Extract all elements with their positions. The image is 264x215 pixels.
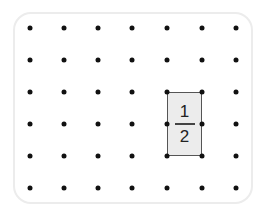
grid-dot [200,154,205,159]
grid-dot [200,58,205,63]
grid-dot [28,58,33,63]
grid-dot [234,122,239,127]
grid-dot [62,26,67,31]
grid-dot [62,154,67,159]
grid-dot [165,186,170,191]
grid-dot [165,58,170,63]
fraction-bar [175,123,195,125]
grid-dot [130,122,135,127]
grid-dot [62,186,67,191]
grid-dot [28,90,33,95]
grid-dot [96,122,101,127]
grid-dot [165,122,170,127]
dot-grid-card [13,12,253,204]
grid-dot [96,186,101,191]
grid-dot [200,26,205,31]
grid-dot [130,186,135,191]
grid-dot [200,122,205,127]
grid-dot [62,58,67,63]
grid-dot [234,26,239,31]
grid-dot [234,90,239,95]
grid-dot [165,154,170,159]
grid-dot [96,154,101,159]
grid-dot [62,90,67,95]
grid-dot [234,58,239,63]
grid-dot [96,58,101,63]
grid-dot [96,26,101,31]
numerator: 1 [180,103,189,120]
grid-dot [130,154,135,159]
grid-dot [28,26,33,31]
grid-dot [130,90,135,95]
fraction-label: 12 [167,92,202,156]
grid-dot [165,90,170,95]
grid-dot [28,154,33,159]
grid-dot [130,26,135,31]
grid-dot [200,186,205,191]
grid-dot [234,186,239,191]
grid-dot [96,90,101,95]
grid-dot [28,186,33,191]
grid-dot [234,154,239,159]
denominator: 2 [180,128,189,145]
grid-dot [200,90,205,95]
grid-dot [28,122,33,127]
grid-dot [165,26,170,31]
grid-dot [62,122,67,127]
grid-dot [130,58,135,63]
